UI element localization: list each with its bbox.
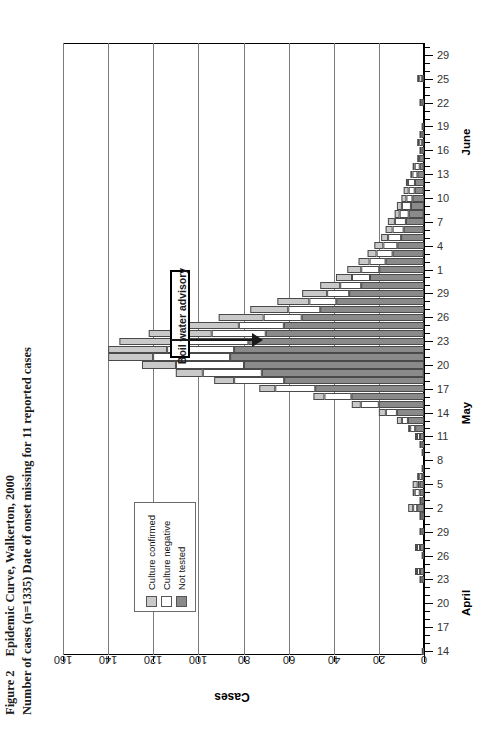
- bar-segment-not-tested: [404, 226, 424, 233]
- date-tick: [424, 246, 433, 247]
- date-tick: [424, 182, 430, 183]
- bar-segment-culture-confirmed: [108, 346, 167, 353]
- bar-stack: [413, 163, 424, 170]
- bar-stack: [386, 226, 424, 233]
- date-tick: [424, 238, 430, 239]
- bar-stack: [406, 179, 424, 186]
- date-tick-label: 16: [437, 144, 449, 156]
- date-tick: [424, 627, 433, 628]
- date-tick: [424, 150, 433, 151]
- bar-segment-culture-negative: [327, 290, 350, 297]
- date-tick: [424, 365, 433, 366]
- legend-label-culture-negative: Culture negative: [161, 521, 172, 590]
- date-tick: [424, 309, 430, 310]
- date-tick-label: 23: [437, 573, 449, 585]
- legend-swatch-culture-confirmed: [146, 596, 157, 607]
- date-tick: [424, 214, 430, 215]
- bar-stack: [388, 218, 424, 225]
- date-tick: [424, 126, 433, 127]
- bar-segment-culture-confirmed: [368, 250, 377, 257]
- cases-tick-label: 140: [99, 654, 117, 666]
- bar-segment-culture-negative: [406, 195, 413, 202]
- date-tick: [424, 619, 430, 620]
- date-tick: [424, 325, 430, 326]
- bar-segment-not-tested: [413, 195, 424, 202]
- date-tick-label: 14: [437, 645, 449, 657]
- bar-stack: [408, 425, 424, 432]
- bar-segment-culture-negative: [388, 234, 402, 241]
- bar-segment-not-tested: [336, 298, 424, 305]
- bar-segment-culture-negative: [401, 202, 410, 209]
- bar-segment-culture-confirmed: [313, 393, 324, 400]
- bar-stack: [219, 314, 424, 321]
- bar-segment-culture-negative: [341, 282, 361, 289]
- cases-tick-label: 100: [189, 654, 207, 666]
- legend-item-culture-negative: Culture negative: [161, 509, 172, 607]
- date-tick: [424, 413, 433, 414]
- cases-axis-title: Cases: [214, 690, 249, 704]
- bar-stack: [277, 298, 424, 305]
- date-tick: [424, 349, 430, 350]
- date-tick: [424, 548, 430, 549]
- month-label: June: [460, 129, 472, 156]
- date-tick: [424, 436, 433, 437]
- bar-segment-culture-confirmed: [214, 377, 234, 384]
- date-tick-label: 13: [437, 168, 449, 180]
- bar-segment-culture-negative: [289, 306, 321, 313]
- bar-stack: [395, 210, 424, 217]
- date-tick-label: 26: [437, 550, 449, 562]
- cases-tick-label: 160: [54, 654, 72, 666]
- date-tick: [424, 532, 433, 533]
- legend-swatch-not-tested: [176, 596, 187, 607]
- bar-stack: [381, 234, 424, 241]
- bar-segment-culture-negative: [352, 274, 370, 281]
- date-tick: [424, 444, 430, 445]
- bar-stack: [250, 306, 424, 313]
- date-tick: [424, 540, 430, 541]
- date-tick: [424, 341, 433, 342]
- bar-segment-not-tested: [350, 290, 424, 297]
- month-label: April: [460, 590, 472, 616]
- date-tick: [424, 47, 430, 48]
- date-tick: [424, 71, 430, 72]
- bar-stack: [413, 481, 424, 488]
- bar-stack: [108, 353, 424, 360]
- chart-legend: Culture confirmed Culture negative Not t…: [134, 502, 196, 612]
- bar-segment-culture-negative: [361, 266, 379, 273]
- legend-item-culture-confirmed: Culture confirmed: [146, 509, 157, 607]
- date-tick: [424, 564, 430, 565]
- bar-stack: [108, 346, 424, 353]
- bar-segment-not-tested: [230, 353, 424, 360]
- date-tick-label: 20: [437, 597, 449, 609]
- date-tick: [424, 500, 430, 501]
- date-tick: [424, 405, 430, 406]
- date-tick: [424, 293, 433, 294]
- date-tick: [424, 389, 433, 390]
- bar-segment-not-tested: [370, 274, 424, 281]
- date-tick-label: 2: [437, 502, 443, 514]
- bar-segment-culture-confirmed: [320, 282, 340, 289]
- date-tick: [424, 556, 433, 557]
- date-tick: [424, 222, 433, 223]
- date-tick: [424, 142, 430, 143]
- bar-segment-culture-negative: [370, 258, 386, 265]
- date-tick: [424, 428, 430, 429]
- bar-segment-not-tested: [401, 234, 424, 241]
- gridline: [63, 43, 64, 655]
- bar-stack: [413, 489, 424, 496]
- bar-segment-culture-negative: [325, 393, 352, 400]
- date-tick: [424, 460, 433, 461]
- date-tick: [424, 643, 430, 644]
- bar-segment-culture-negative: [239, 322, 284, 329]
- date-tick: [424, 111, 430, 112]
- date-tick: [424, 397, 430, 398]
- bar-segment-culture-negative: [395, 218, 406, 225]
- bar-segment-not-tested: [361, 282, 424, 289]
- boil-water-advisory-callout: Boil water advisory: [170, 270, 190, 358]
- bar-stack: [408, 504, 424, 511]
- legend-item-not-tested: Not tested: [176, 509, 187, 607]
- bar-segment-culture-negative: [383, 242, 397, 249]
- bar-segment-not-tested: [284, 377, 424, 384]
- date-tick: [424, 651, 433, 652]
- date-tick: [424, 333, 430, 334]
